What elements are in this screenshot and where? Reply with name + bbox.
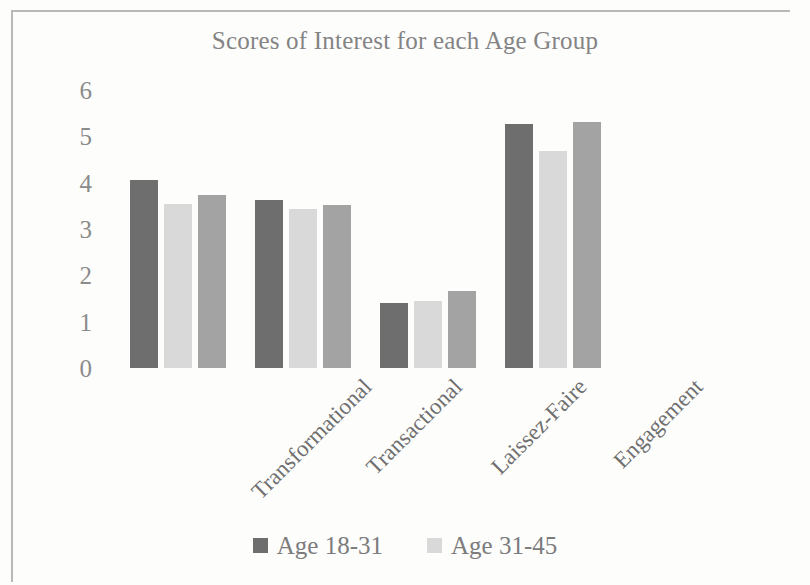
- legend-item: Age 18-31: [253, 533, 383, 558]
- x-axis: TransformationalTransactionalLaissez-Fai…: [100, 368, 660, 518]
- bar: [130, 180, 158, 368]
- bar-group: [505, 90, 601, 368]
- chart-title: Scores of Interest for each Age Group: [0, 27, 810, 55]
- bar-group: [255, 90, 351, 368]
- bar: [380, 303, 408, 368]
- bar: [573, 122, 601, 368]
- bar-group: [380, 90, 476, 368]
- bar: [505, 124, 533, 368]
- y-axis-tick: 0: [40, 356, 92, 381]
- x-axis-category-label: Transactional: [361, 374, 467, 480]
- y-axis-tick: 5: [40, 124, 92, 149]
- bar: [414, 301, 442, 368]
- legend-swatch-icon: [253, 538, 268, 553]
- plot-area: [100, 90, 660, 368]
- x-axis-category-label: Transformational: [247, 374, 378, 505]
- legend-label: Age 31-45: [451, 533, 557, 558]
- x-axis-category-label: Laissez-Faire: [486, 374, 592, 480]
- bar: [448, 291, 476, 368]
- legend-swatch-icon: [427, 538, 442, 553]
- bar: [323, 205, 351, 368]
- y-axis-tick: 2: [40, 263, 92, 288]
- chart-legend: Age 18-31Age 31-45: [0, 533, 810, 558]
- legend-item: Age 31-45: [427, 533, 557, 558]
- chart-figure: Scores of Interest for each Age Group 65…: [0, 0, 810, 585]
- y-axis: 6543210: [40, 90, 92, 368]
- bar: [539, 151, 567, 368]
- bar: [164, 204, 192, 368]
- bar: [289, 209, 317, 368]
- bar: [198, 195, 226, 368]
- y-axis-tick: 4: [40, 170, 92, 195]
- y-axis-tick: 3: [40, 217, 92, 242]
- bar-group: [130, 90, 226, 368]
- y-axis-tick: 6: [40, 78, 92, 103]
- legend-label: Age 18-31: [277, 533, 383, 558]
- bar: [255, 200, 283, 368]
- y-axis-tick: 1: [40, 309, 92, 334]
